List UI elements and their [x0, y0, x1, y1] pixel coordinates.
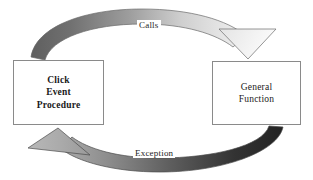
node-click-event-procedure-line-1: Click	[47, 74, 70, 87]
node-general-function-line-2: Function	[239, 93, 274, 106]
edge-exception-arrowhead-icon	[28, 128, 90, 155]
node-general-function-line-1: General	[241, 81, 272, 94]
edge-calls-arrowhead-icon	[219, 29, 276, 59]
edge-calls	[31, 9, 276, 60]
edge-calls-body	[31, 9, 246, 60]
node-click-event-procedure-line-2: Event	[46, 86, 71, 99]
edge-label-exception: Exception	[133, 148, 175, 158]
node-general-function: General Function	[212, 61, 301, 125]
node-click-event-procedure-line-3: Procedure	[37, 99, 81, 112]
edge-label-calls: Calls	[137, 20, 161, 30]
cycle-diagram: Click Event Procedure General Function C…	[0, 0, 313, 180]
node-click-event-procedure: Click Event Procedure	[13, 60, 104, 125]
